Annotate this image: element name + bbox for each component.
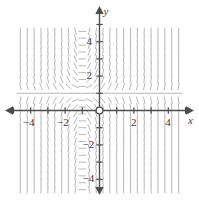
- slope-segment: [74, 62, 77, 69]
- slope-segment: [68, 62, 70, 69]
- slope-segment: [41, 110, 42, 117]
- slope-segment: [86, 85, 93, 88]
- slope-segment: [20, 103, 21, 110]
- slope-segment: [47, 69, 48, 76]
- slope-segment: [178, 76, 179, 83]
- slope-segment: [136, 97, 138, 104]
- slope-field-figure: −4 −2 2 4 4 2 −2 −4 x y: [0, 0, 199, 200]
- slope-segment: [95, 131, 96, 138]
- slope-segment: [75, 152, 77, 159]
- slope-segment: [73, 77, 78, 82]
- slope-segment: [95, 48, 96, 55]
- slope-segment: [74, 55, 77, 62]
- slope-segment: [54, 103, 56, 110]
- slope-segment: [95, 62, 97, 69]
- slope-segment: [54, 69, 55, 76]
- slope-segment: [34, 69, 35, 76]
- slope-segment: [48, 131, 49, 138]
- slope-segment: [60, 76, 62, 83]
- slope-segment: [68, 172, 69, 179]
- slope-segment: [75, 28, 77, 35]
- slope-segment: [48, 55, 49, 62]
- slope-segment: [129, 83, 131, 90]
- slope-segment: [20, 83, 22, 90]
- slope-segment: [55, 138, 56, 145]
- slope-segment: [122, 83, 124, 90]
- slope-segment: [109, 62, 110, 69]
- slope-segment: [109, 124, 110, 131]
- slope-segment: [115, 97, 118, 104]
- slope-segment: [116, 69, 117, 76]
- slope-segment: [115, 83, 118, 90]
- slope-segment: [96, 41, 97, 48]
- slope-segment: [68, 41, 69, 48]
- slope-segment: [137, 76, 138, 83]
- slope-segment: [68, 48, 69, 55]
- slope-segment: [137, 110, 138, 117]
- slope-segment: [103, 48, 104, 55]
- slope-segment: [74, 145, 76, 152]
- slope-segment: [75, 165, 76, 172]
- slope-segment: [151, 76, 152, 83]
- slope-segment: [143, 83, 145, 90]
- plot-canvas: [0, 0, 199, 200]
- slope-segment: [144, 103, 145, 110]
- slope-segment: [61, 151, 62, 158]
- slope-segment: [123, 76, 124, 83]
- slope-segment: [54, 62, 55, 69]
- slope-segment: [103, 41, 104, 48]
- slope-segment: [93, 84, 98, 89]
- slope-segment: [46, 97, 49, 104]
- slope-segment: [40, 76, 41, 83]
- slope-segment: [110, 48, 111, 55]
- slope-segment: [72, 99, 79, 102]
- slope-segment: [68, 28, 69, 35]
- slope-segment: [165, 103, 166, 110]
- slope-segment: [88, 28, 90, 35]
- slope-segment: [68, 138, 69, 145]
- slope-segment: [157, 97, 158, 104]
- slope-segment: [96, 145, 97, 152]
- slope-segment: [87, 111, 91, 117]
- y-tick-label-2: 2: [87, 70, 93, 81]
- slope-segment: [123, 124, 124, 131]
- slope-segment: [75, 172, 76, 179]
- slope-segment: [164, 96, 165, 103]
- slope-segment: [89, 186, 90, 193]
- slope-segment: [53, 83, 56, 90]
- slope-segment: [68, 131, 69, 138]
- slope-segment: [54, 55, 55, 62]
- slope-segment: [96, 28, 97, 35]
- slope-segment: [74, 138, 76, 145]
- slope-segment: [144, 69, 145, 76]
- slope-segment: [54, 117, 55, 124]
- slope-segment: [74, 131, 76, 138]
- slope-segment: [66, 98, 71, 103]
- slope-segment: [74, 117, 77, 124]
- slope-segment: [110, 138, 111, 145]
- slope-segment: [130, 103, 131, 110]
- slope-segment: [88, 55, 91, 62]
- slope-segment: [72, 85, 79, 88]
- slope-segment: [33, 97, 35, 104]
- slope-segment: [103, 138, 104, 145]
- y-axis-arrowhead-top: [95, 6, 103, 14]
- slope-segment: [34, 62, 35, 69]
- slope-segment: [46, 83, 49, 90]
- slope-segment: [109, 55, 110, 62]
- x-tick-label-neg2: −2: [57, 117, 69, 128]
- slope-segment: [67, 69, 69, 76]
- slope-segment: [27, 69, 28, 76]
- slope-segment: [102, 69, 104, 76]
- slope-segment: [40, 103, 41, 110]
- slope-segment: [178, 83, 179, 90]
- slope-segment: [48, 48, 49, 55]
- slope-segment: [137, 69, 138, 76]
- slope-segment: [88, 158, 90, 165]
- slope-segment: [88, 152, 90, 159]
- slope-segment: [73, 70, 77, 76]
- slope-segment: [123, 55, 124, 62]
- slope-segment: [33, 83, 35, 90]
- slope-segment: [61, 158, 62, 165]
- slope-segment: [95, 69, 97, 76]
